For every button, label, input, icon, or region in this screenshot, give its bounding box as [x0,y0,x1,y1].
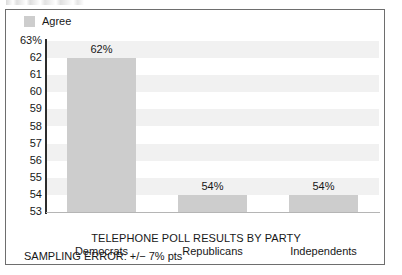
y-tick-label: 54 [30,189,42,200]
y-tick-label: 53 [30,206,42,217]
bar-value-label: 54% [158,181,267,192]
plot-region: 63%62616059585756555453 62%54%54% Democr… [6,41,386,221]
bar-republicans [178,195,247,212]
y-axis-line [45,39,47,214]
chart-legend: Agree [24,16,71,27]
y-tick-label: 59 [30,103,42,114]
bar-value-label: 54% [269,181,378,192]
chart-screenshot: Agree 63%62616059585756555453 62%54%54% … [0,0,402,275]
sampling-error-note: SAMPLING ERROR: +/− 7% pts [24,250,182,262]
bar-value-label: 62% [47,44,156,55]
y-tick-label: 56 [30,155,42,166]
legend-label-agree: Agree [42,16,71,27]
scan-artifact [6,0,84,5]
chart-frame: Agree 63%62616059585756555453 62%54%54% … [5,9,385,265]
y-axis-tick-labels: 63%62616059585756555453 [6,41,44,213]
y-tick-label: 57 [30,138,42,149]
y-tick-label: 60 [30,86,42,97]
y-tick-label: 61 [30,69,42,80]
y-tick-label: 55 [30,172,42,183]
y-tick-label: 62 [30,52,42,63]
bar-independents [289,195,358,212]
x-axis-title: TELEPHONE POLL RESULTS BY PARTY [6,232,386,244]
category-label-independents: Independents [268,245,379,257]
legend-swatch-agree-icon [24,16,35,27]
y-tick-label: 63% [20,35,42,46]
x-axis-line [46,212,380,213]
y-tick-label: 58 [30,121,42,132]
bar-democrats [67,58,136,212]
